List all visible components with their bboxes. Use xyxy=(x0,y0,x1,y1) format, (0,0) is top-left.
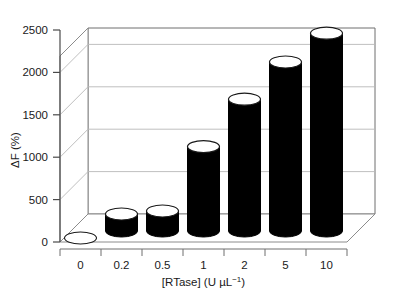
left-wall xyxy=(60,28,88,242)
x-tick-label-0: 0 xyxy=(77,259,83,271)
bar-1-body xyxy=(188,147,220,237)
bar-2-body xyxy=(229,99,261,237)
bar-0.2-top-ellipse xyxy=(106,208,138,220)
x-tick-label-0.5: 0.5 xyxy=(155,259,171,271)
bar-1-top-ellipse xyxy=(188,141,220,153)
x-tick-label-1: 1 xyxy=(200,259,206,271)
bar-10-top-ellipse xyxy=(311,27,343,39)
x-tick-label-0.2: 0.2 xyxy=(114,259,130,271)
bar-2-top-ellipse xyxy=(229,93,261,105)
y-tick-label-1500: 1500 xyxy=(22,109,48,121)
y-tick-label-500: 500 xyxy=(29,194,48,206)
bar-0.5[interactable] xyxy=(147,205,179,237)
bar-0-base-ellipse xyxy=(65,232,97,244)
x-axis-title: [RTase] (U µL−1) xyxy=(162,275,245,288)
x-tick-label-5: 5 xyxy=(282,259,288,271)
x-tick-labels: 0 0.2 0.5 1 2 5 10 xyxy=(77,259,333,271)
bar-5[interactable] xyxy=(270,56,302,237)
y-tick-labels: 0 500 1000 1500 2000 2500 xyxy=(22,24,48,248)
x-tick-label-10: 10 xyxy=(320,259,333,271)
bar-chart-3d: 0 500 1000 1500 2000 2500 ΔF (%) xyxy=(0,0,414,290)
bar-5-top-ellipse xyxy=(270,56,302,68)
y-tick-label-2000: 2000 xyxy=(22,66,48,78)
bar-5-body xyxy=(270,62,302,237)
bar-2[interactable] xyxy=(229,93,261,237)
x-axis xyxy=(60,249,347,256)
bar-10-body xyxy=(311,33,343,237)
chart-container: 0 500 1000 1500 2000 2500 ΔF (%) xyxy=(0,0,414,290)
x-axis-title-main: [RTase] (U µL xyxy=(162,276,233,288)
y-axis-title: ΔF (%) xyxy=(9,132,21,168)
y-axis xyxy=(53,30,60,242)
bar-0.5-top-ellipse xyxy=(147,205,179,217)
bar-0[interactable] xyxy=(65,232,97,244)
y-tick-label-1000: 1000 xyxy=(22,151,48,163)
y-tick-label-2500: 2500 xyxy=(22,24,48,36)
bar-1[interactable] xyxy=(188,141,220,237)
bar-10[interactable] xyxy=(311,27,343,237)
x-tick-label-2: 2 xyxy=(241,259,247,271)
bar-0.2[interactable] xyxy=(106,208,138,237)
x-axis-title-tail: ) xyxy=(241,276,245,288)
y-tick-label-0: 0 xyxy=(42,236,48,248)
